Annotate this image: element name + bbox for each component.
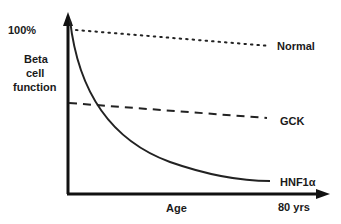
x-axis-label: Age xyxy=(166,202,187,215)
ylabel-line3: function xyxy=(13,81,56,94)
legend-hnf1a: HNF1α xyxy=(280,176,316,189)
y-axis-arrow-icon xyxy=(63,12,73,26)
chart-canvas xyxy=(0,0,341,224)
x-axis-arrow-icon xyxy=(316,189,330,199)
x-tick-80: 80 yrs xyxy=(278,201,310,214)
legend-gck: GCK xyxy=(280,115,304,128)
ylabel-line2: cell xyxy=(26,67,44,80)
y-tick-100: 100% xyxy=(8,24,36,37)
normal-line xyxy=(76,30,270,46)
ylabel-line1: Beta xyxy=(24,53,48,66)
legend-normal: Normal xyxy=(277,40,315,53)
